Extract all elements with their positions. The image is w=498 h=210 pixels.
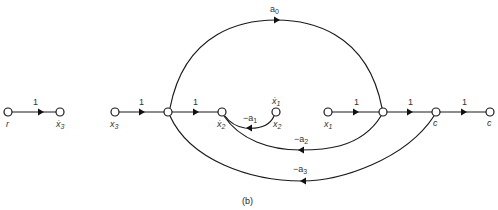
arrow-icon [300, 178, 306, 185]
gain-label: 1 [354, 97, 359, 107]
node-label-c2: c [487, 118, 492, 128]
arrow-icon [407, 109, 413, 116]
arrow-icon [139, 109, 145, 116]
arrow-icon [298, 147, 304, 154]
gain-label: 1 [139, 97, 144, 107]
node-label-x2: x2 [272, 119, 282, 130]
node-label-c1: c [433, 118, 438, 128]
figure-caption: (b) [242, 196, 253, 206]
gain-label: 1 [33, 97, 38, 107]
node-c1 [432, 108, 440, 116]
gain-label-a0: a0 [270, 4, 279, 15]
signal-flow-graph: 1 r ẋ3 1 1 −a1 1 1 1 a0 [0, 0, 498, 210]
arrow-icon [38, 109, 44, 116]
node-label-x3dot: ẋ3 [55, 119, 65, 130]
gain-label-a1: −a1 [243, 113, 257, 124]
node-junction-1 [164, 108, 172, 116]
node-x3dot [56, 108, 64, 116]
main-graph: 1 1 −a1 1 1 1 a0 −a2 −a3 [109, 4, 494, 185]
arrow-icon [353, 109, 359, 116]
node-x1 [324, 108, 332, 116]
edge-a0-arc [170, 20, 382, 108]
node-label-x2dot: ẋ2 [216, 119, 226, 130]
gain-label: 1 [462, 97, 467, 107]
node-c2 [486, 108, 494, 116]
arrow-icon [246, 125, 252, 132]
node-r [4, 108, 12, 116]
node-label-x1dot: ẋ1 [271, 96, 281, 107]
node-label-r: r [6, 119, 10, 129]
gain-label: 1 [408, 97, 413, 107]
gain-label-a2: −a2 [294, 134, 308, 145]
node-label-x1: x1 [323, 119, 333, 130]
arrow-icon [274, 17, 280, 24]
node-x3 [111, 108, 119, 116]
node-junction-2 [379, 108, 387, 116]
gain-label-a3: −a3 [293, 164, 307, 175]
gain-label: 1 [193, 97, 198, 107]
node-label-x3: x3 [109, 119, 119, 130]
node-x2dot [218, 108, 226, 116]
node-x2 [272, 108, 280, 116]
left-graph: 1 r ẋ3 [4, 97, 65, 130]
arrow-icon [193, 109, 199, 116]
arrow-icon [461, 109, 467, 116]
